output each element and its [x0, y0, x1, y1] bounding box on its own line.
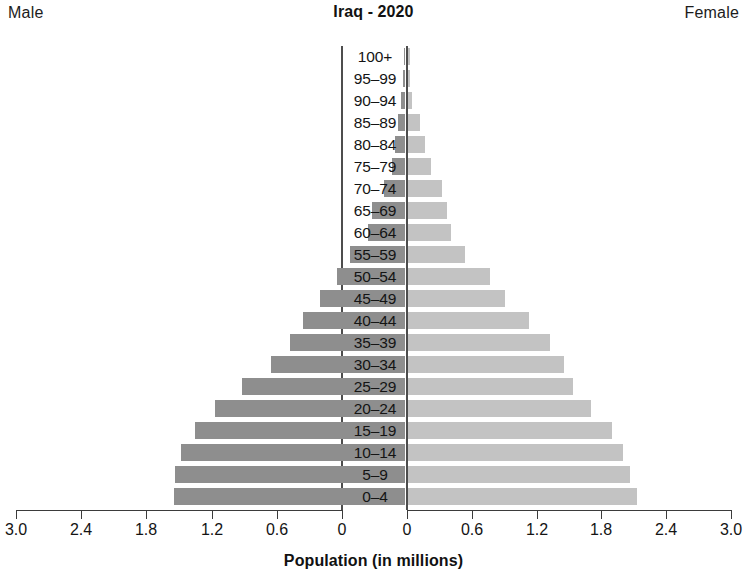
x-tick-label-female: 0.6 — [461, 521, 483, 539]
female-bar — [408, 114, 420, 131]
age-group-label: 90–94 — [342, 91, 408, 111]
female-bar — [408, 290, 505, 307]
pyramid-row: 60–64 — [0, 222, 747, 244]
female-bar — [408, 246, 465, 263]
x-tick-label-male: 2.4 — [70, 521, 92, 539]
female-bar — [408, 158, 431, 175]
pyramid-row: 95–99 — [0, 68, 747, 90]
female-bar — [408, 48, 410, 65]
age-group-label: 15–19 — [342, 421, 408, 441]
age-group-label: 80–84 — [342, 135, 408, 155]
x-tick-male — [146, 510, 147, 519]
female-bar — [408, 92, 412, 109]
age-group-label: 45–49 — [342, 289, 408, 309]
age-group-label: 0–4 — [342, 487, 408, 507]
pyramid-row: 15–19 — [0, 420, 747, 442]
x-tick-male — [81, 510, 82, 519]
x-axis-title: Population (in millions) — [0, 552, 747, 570]
pyramid-row: 85–89 — [0, 112, 747, 134]
x-tick-label-female: 1.2 — [526, 521, 548, 539]
x-tick-label-female: 2.4 — [655, 521, 677, 539]
x-tick-label-male: 1.8 — [135, 521, 157, 539]
x-tick-label-female: 3.0 — [720, 521, 742, 539]
female-bar — [408, 312, 529, 329]
male-x-axis-line — [16, 510, 343, 511]
age-group-label: 25–29 — [342, 377, 408, 397]
x-tick-label-female: 1.8 — [590, 521, 612, 539]
pyramid-row: 75–79 — [0, 156, 747, 178]
x-tick-label-male: 3.0 — [5, 521, 27, 539]
chart-title: Iraq - 2020 — [0, 3, 747, 21]
x-tick-label-male: 0.6 — [266, 521, 288, 539]
age-group-label: 40–44 — [342, 311, 408, 331]
pyramid-row: 0–4 — [0, 486, 747, 508]
female-bar — [408, 180, 442, 197]
pyramid-row: 20–24 — [0, 398, 747, 420]
age-group-label: 50–54 — [342, 267, 408, 287]
female-bar — [408, 268, 490, 285]
female-bar — [408, 334, 550, 351]
x-tick-label-male: 0 — [338, 521, 347, 539]
female-x-axis-line — [407, 510, 731, 511]
age-group-label: 95–99 — [342, 69, 408, 89]
female-side-label: Female — [684, 4, 739, 22]
x-tick-female — [472, 510, 473, 519]
age-group-label: 85–89 — [342, 113, 408, 133]
age-group-label: 60–64 — [342, 223, 408, 243]
age-group-label: 10–14 — [342, 443, 408, 463]
pyramid-row: 55–59 — [0, 244, 747, 266]
pyramid-row: 25–29 — [0, 376, 747, 398]
pyramid-row: 5–9 — [0, 464, 747, 486]
x-tick-label-female: 0 — [403, 521, 412, 539]
female-bar — [408, 378, 573, 395]
pyramid-row: 100+ — [0, 46, 747, 68]
age-group-label: 30–34 — [342, 355, 408, 375]
x-tick-female — [537, 510, 538, 519]
plot-area: 100+95–9990–9485–8980–8475–7970–7465–696… — [0, 46, 747, 510]
x-tick-male — [212, 510, 213, 519]
age-group-label: 75–79 — [342, 157, 408, 177]
x-tick-female — [407, 510, 408, 519]
female-bar — [408, 224, 451, 241]
x-tick-female — [666, 510, 667, 519]
female-bar — [408, 466, 630, 483]
age-group-label: 65–69 — [342, 201, 408, 221]
pyramid-row: 50–54 — [0, 266, 747, 288]
female-bar — [408, 422, 612, 439]
female-bar — [408, 400, 591, 417]
female-bar — [408, 444, 623, 461]
age-group-label: 20–24 — [342, 399, 408, 419]
age-group-label: 5–9 — [342, 465, 408, 485]
population-pyramid-chart: Male Iraq - 2020 Female 100+95–9990–9485… — [0, 0, 747, 584]
female-bar — [408, 356, 564, 373]
female-bar — [408, 136, 425, 153]
pyramid-row: 35–39 — [0, 332, 747, 354]
pyramid-row: 90–94 — [0, 90, 747, 112]
pyramid-row: 30–34 — [0, 354, 747, 376]
x-tick-male — [342, 510, 343, 519]
age-group-label: 70–74 — [342, 179, 408, 199]
pyramid-row: 40–44 — [0, 310, 747, 332]
female-bar — [408, 488, 637, 505]
female-bar — [408, 202, 447, 219]
x-tick-female — [731, 510, 732, 519]
x-tick-female — [601, 510, 602, 519]
female-bar — [408, 70, 410, 87]
x-tick-male — [277, 510, 278, 519]
pyramid-row: 80–84 — [0, 134, 747, 156]
pyramid-row: 45–49 — [0, 288, 747, 310]
age-group-label: 35–39 — [342, 333, 408, 353]
pyramid-row: 70–74 — [0, 178, 747, 200]
pyramid-row: 65–69 — [0, 200, 747, 222]
age-group-label: 55–59 — [342, 245, 408, 265]
pyramid-row: 10–14 — [0, 442, 747, 464]
x-tick-label-male: 1.2 — [201, 521, 223, 539]
x-tick-male — [16, 510, 17, 519]
age-group-label: 100+ — [342, 47, 408, 67]
